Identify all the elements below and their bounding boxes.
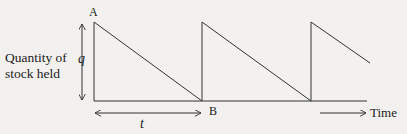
- x-axis-label: Time: [370, 106, 397, 120]
- quantity-label: q: [78, 52, 85, 66]
- period-label: t: [140, 117, 144, 131]
- y-axis-label: Quantity of stock held: [5, 50, 67, 82]
- point-b-label: B: [209, 104, 217, 118]
- point-a-label: A: [89, 5, 98, 19]
- inventory-sawtooth-diagram: Quantity of stock held A B q t Time: [0, 0, 407, 134]
- y-axis-label-line-1: Quantity of: [5, 50, 67, 66]
- stock-level-line: [94, 22, 370, 101]
- y-axis-label-line-2: stock held: [5, 66, 67, 82]
